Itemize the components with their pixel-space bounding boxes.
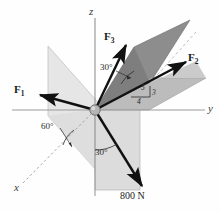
origin-highlight bbox=[91, 106, 95, 110]
y-axis-label: y bbox=[208, 103, 213, 114]
force-label-f3-sub: 3 bbox=[111, 36, 115, 45]
slope-label-horizontal: 4 bbox=[137, 98, 141, 106]
force-label-f3: F3 bbox=[104, 31, 114, 45]
force-label-f3-letter: F bbox=[104, 30, 111, 42]
x-axis-label: x bbox=[14, 182, 19, 193]
force-label-f2-letter: F bbox=[188, 51, 195, 63]
force-label-f1-letter: F bbox=[14, 83, 21, 95]
angle-label-60: 60° bbox=[41, 122, 54, 131]
force-label-f1: F1 bbox=[14, 84, 24, 98]
force-label-f2-sub: 2 bbox=[195, 57, 199, 66]
angle-label-f3: 30° bbox=[100, 63, 113, 72]
force-label-800n: 800 N bbox=[120, 191, 145, 201]
z-axis-label: z bbox=[89, 6, 93, 17]
force-label-f2: F2 bbox=[188, 52, 198, 66]
angle-label-800n: 30° bbox=[95, 148, 108, 157]
origin-point bbox=[90, 105, 100, 115]
slope-label-vertical: 3 bbox=[152, 89, 156, 97]
force-label-f1-sub: 1 bbox=[21, 89, 25, 98]
slope-label-hypotenuse: 5 bbox=[141, 84, 145, 92]
force-diagram-figure: z y x F1 F2 F3 30° 60° 30° 5 3 4 800 N bbox=[0, 0, 221, 213]
